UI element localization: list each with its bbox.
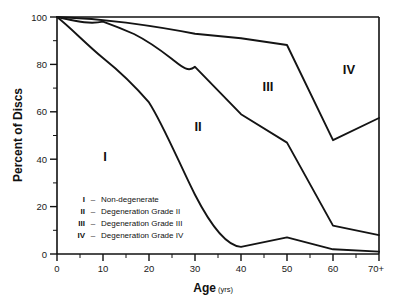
x-tick-label-10: 10 <box>98 263 109 274</box>
legend-dash-iii: – <box>91 219 96 228</box>
legend-dash-iv: – <box>91 231 96 240</box>
chart-page: 0 20 40 60 80 100 0 10 20 3 <box>0 0 399 301</box>
disc-degeneration-chart: 0 20 40 60 80 100 0 10 20 3 <box>0 0 399 301</box>
region-label-ii: II <box>194 119 201 134</box>
x-tick-label-60: 60 <box>328 263 339 274</box>
x-tick-label-40: 40 <box>236 263 247 274</box>
legend-symbol-i: I <box>83 195 85 204</box>
region-label-iii: III <box>263 79 274 94</box>
region-label-i: I <box>103 149 107 164</box>
x-axis-title-unit: (yrs) <box>218 285 233 294</box>
y-tick-label-0: 0 <box>42 249 47 260</box>
y-tick-label-20: 20 <box>36 201 47 212</box>
x-tick-label-30: 30 <box>190 263 201 274</box>
y-axis-title: Percent of Discs <box>11 88 25 182</box>
x-axis-title: Age <box>193 281 216 295</box>
x-tick-label-50: 50 <box>282 263 293 274</box>
legend-label-iii: Degeneration Grade III <box>101 219 182 228</box>
x-tick-label-20: 20 <box>144 263 155 274</box>
region-label-iv: IV <box>343 62 356 77</box>
chart-background <box>0 0 399 301</box>
legend-symbol-ii: II <box>81 207 85 216</box>
legend-item-i: I – Non-degenerate <box>83 195 160 204</box>
legend-symbol-iii: III <box>78 219 85 228</box>
x-tick-label-70plus: 70+ <box>368 263 385 274</box>
x-tick-label-0: 0 <box>54 263 59 274</box>
legend-symbol-iv: IV <box>77 231 85 240</box>
y-tick-label-100: 100 <box>31 12 47 23</box>
y-tick-label-40: 40 <box>36 154 47 165</box>
y-tick-label-60: 60 <box>36 106 47 117</box>
legend-label-iv: Degeneration Grade IV <box>101 231 184 240</box>
legend-dash-ii: – <box>91 207 96 216</box>
legend-dash-i: – <box>91 195 96 204</box>
legend-label-ii: Degeneration Grade II <box>101 207 180 216</box>
y-tick-label-80: 80 <box>36 59 47 70</box>
legend-label-i: Non-degenerate <box>101 195 159 204</box>
legend-item-iv: IV – Degeneration Grade IV <box>77 231 184 240</box>
legend-item-iii: III – Degeneration Grade III <box>78 219 182 228</box>
